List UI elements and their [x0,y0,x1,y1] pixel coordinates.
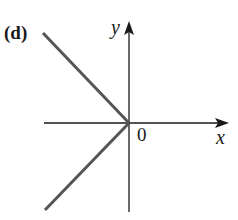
lower-ray [45,123,129,210]
upper-ray [43,33,129,123]
y-axis [124,21,134,212]
y-axis-label: y [111,16,120,39]
origin-label: 0 [137,124,147,146]
x-axis-label: x [216,126,225,149]
panel-label: (d) [4,22,27,44]
figure-d: (d) y 0 x [0,0,238,220]
